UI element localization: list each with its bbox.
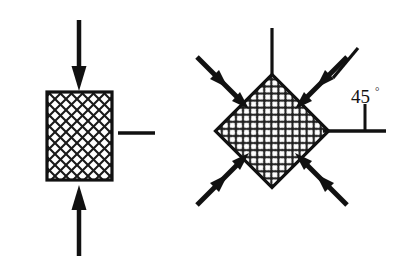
diagram-canvas: 45 ° bbox=[0, 0, 406, 276]
square-element bbox=[47, 92, 112, 180]
angle-label-value: 45 bbox=[351, 86, 370, 107]
angle-label-unit: ° bbox=[375, 85, 379, 97]
figure-root: 45 ° bbox=[0, 0, 406, 276]
